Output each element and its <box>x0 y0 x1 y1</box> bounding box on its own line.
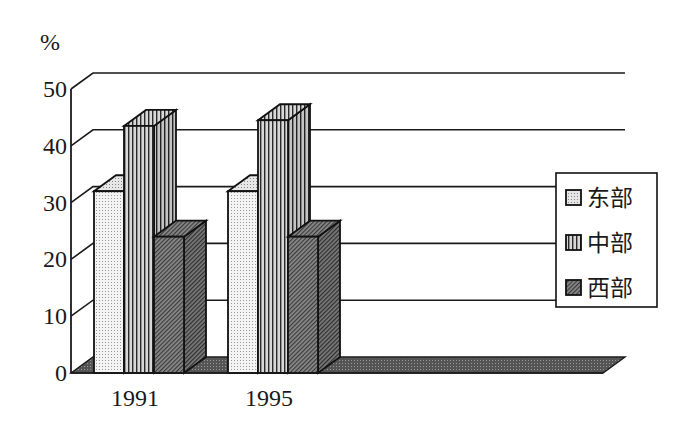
bar-group-1995 <box>228 104 340 373</box>
legend-swatch <box>566 235 581 250</box>
y-tick-label: 10 <box>43 303 67 329</box>
bar <box>288 221 340 373</box>
gridline <box>71 73 625 89</box>
y-tick-label: 50 <box>43 76 67 102</box>
legend-label: 中部 <box>587 230 633 256</box>
y-tick-label: 20 <box>43 246 67 272</box>
y-tick-label: 0 <box>55 360 67 386</box>
y-axis-unit: % <box>40 29 60 55</box>
bar-chart: 01020304050%19911995 东部中部西部 <box>0 0 693 446</box>
y-tick-label: 40 <box>43 133 67 159</box>
legend-label: 西部 <box>587 275 633 301</box>
legend: 东部中部西部 <box>556 173 657 307</box>
bar <box>154 221 206 373</box>
legend-swatch <box>566 280 581 295</box>
legend-label: 东部 <box>587 185 633 211</box>
x-category-label: 1995 <box>245 385 293 411</box>
legend-swatch <box>566 190 581 205</box>
y-tick-label: 30 <box>43 190 67 216</box>
bar-group-1991 <box>94 110 206 373</box>
bar-series <box>94 104 340 373</box>
x-category-label: 1991 <box>111 385 159 411</box>
